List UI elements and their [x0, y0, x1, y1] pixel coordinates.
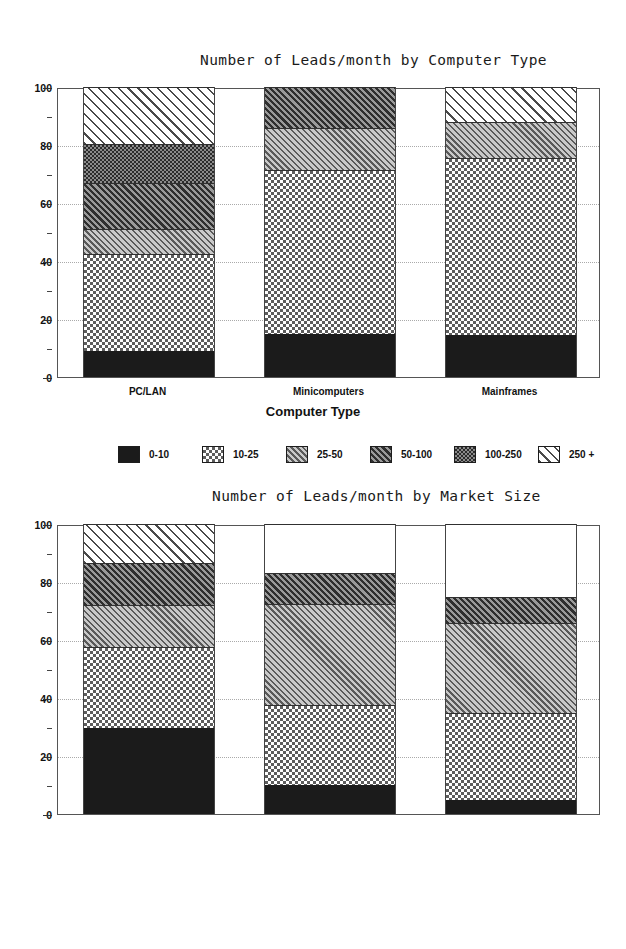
y-tick-major [43, 262, 52, 263]
bar-segment-25-50 [446, 623, 576, 713]
y-tick-major [43, 641, 52, 642]
bar-segment-0-10 [446, 800, 576, 815]
legend-label: 250 + [569, 449, 594, 460]
bar-segment-10-25 [84, 254, 214, 351]
bar-segment-50-100 [84, 563, 214, 605]
legend-item[interactable]: 25-50 [286, 446, 370, 463]
legend-item[interactable]: 100-250 [454, 446, 538, 463]
legend-swatch [118, 446, 140, 463]
bar-segment-50-100 [446, 597, 576, 623]
y-tick-major [43, 88, 52, 89]
y-tick-minor [47, 786, 52, 787]
chart2-title: Number of Leads/month by Market Size [212, 488, 541, 504]
chart2-y-axis: 020406080100 [0, 525, 52, 815]
y-tick-major [43, 320, 52, 321]
y-tick-minor [47, 670, 52, 671]
legend-label: 50-100 [401, 449, 432, 460]
bar-segment-25-50 [265, 128, 395, 170]
y-tick-major [43, 378, 52, 379]
bar-segment-250 [265, 524, 395, 573]
bar-mainframes [445, 87, 577, 377]
chart-market-size: Number of Leads/month by Market Size 020… [0, 470, 626, 949]
bar-segment-10-25 [446, 158, 576, 335]
y-tick-major [43, 815, 52, 816]
legend-item[interactable]: 250 + [538, 446, 622, 463]
bar-segment-0-10 [84, 728, 214, 814]
chart1-plot-area [57, 88, 600, 378]
bar-segment-25-50 [84, 229, 214, 254]
legend-label: 25-50 [317, 449, 343, 460]
bar-segment-10-25 [446, 713, 576, 800]
legend-swatch [370, 446, 392, 463]
bar-segment-10-25 [265, 170, 395, 334]
bar-pc-lan [83, 87, 215, 377]
y-tick-major [43, 699, 52, 700]
y-tick-minor [47, 612, 52, 613]
y-tick-minor [47, 233, 52, 234]
y-tick-major [43, 525, 52, 526]
y-tick-major [43, 757, 52, 758]
y-tick-minor [47, 175, 52, 176]
bar-1-000-10-000 [264, 524, 396, 814]
chart1-y-axis: 020406080100 [0, 88, 52, 378]
legend-swatch [454, 446, 476, 463]
bar-segment-100-250 [84, 524, 214, 563]
bar-segment-25-50 [265, 604, 395, 706]
legend-item[interactable]: 50-100 [370, 446, 454, 463]
legend-label: 100-250 [485, 449, 522, 460]
legend-label: 0-10 [149, 449, 169, 460]
x-category-label: Mainframes [482, 386, 538, 397]
bar-more-than-10-000 [445, 524, 577, 814]
y-tick-minor [47, 291, 52, 292]
bar-segment-250 [446, 87, 576, 122]
bar-segment-250 [84, 87, 214, 144]
chart1-x-axis-title: Computer Type [266, 404, 360, 419]
bar-segment-100-250 [84, 144, 214, 183]
legend-item[interactable]: 10-25 [202, 446, 286, 463]
bar-segment-0-10 [265, 334, 395, 378]
y-tick-minor [47, 349, 52, 350]
legend-swatch [286, 446, 308, 463]
bar-minicomputers [264, 87, 396, 377]
y-tick-minor [47, 728, 52, 729]
bar-segment-50-100 [265, 573, 395, 603]
chart-computer-type: Number of Leads/month by Computer Type 0… [0, 0, 626, 470]
bar-segment-0-10 [446, 335, 576, 377]
y-tick-major [43, 146, 52, 147]
bar-less-than-1-000 [83, 524, 215, 814]
bar-segment-50-100 [265, 87, 395, 128]
y-tick-major [43, 204, 52, 205]
legend-swatch [202, 446, 224, 463]
bar-segment-10-25 [265, 705, 395, 785]
x-category-label: PC/LAN [129, 386, 166, 397]
bar-segment-0-10 [84, 351, 214, 377]
bar-segment-50-100 [84, 183, 214, 229]
legend-swatch [538, 446, 560, 463]
bar-segment-0-10 [265, 785, 395, 814]
legend-label: 10-25 [233, 449, 259, 460]
bar-segment-25-50 [446, 122, 576, 158]
chart2-plot-area [57, 525, 600, 815]
y-tick-major [43, 583, 52, 584]
bar-segment-25-50 [84, 605, 214, 647]
bar-segment-10-25 [84, 647, 214, 728]
chart1-legend: 0-1010-2525-5050-100100-250250 + [118, 446, 622, 463]
x-category-label: Minicomputers [293, 386, 364, 397]
legend-item[interactable]: 0-10 [118, 446, 202, 463]
y-tick-minor [47, 117, 52, 118]
y-tick-minor [47, 554, 52, 555]
chart1-title: Number of Leads/month by Computer Type [200, 52, 547, 68]
bar-segment-250 [446, 524, 576, 597]
